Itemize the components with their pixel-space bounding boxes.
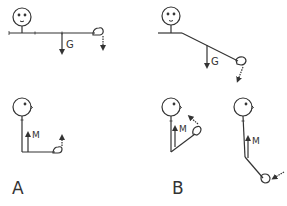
gravity-label: G [211, 56, 219, 67]
head-icon [162, 98, 182, 116]
muscle-label: M [252, 136, 260, 146]
load-arrow-down [238, 67, 243, 80]
figure-a-gravity [9, 8, 103, 52]
panel-label-a: A [12, 178, 24, 198]
arm-bar [182, 33, 238, 61]
muscle-label: M [179, 124, 187, 134]
panel-label-b: B [172, 178, 184, 198]
head-icon [13, 98, 33, 116]
arm-lever-diagram: G G M [0, 0, 287, 206]
hand-icon [93, 28, 103, 35]
muscle-label: M [32, 130, 40, 140]
figure-b-gravity [158, 7, 246, 80]
hand-icon [193, 126, 201, 135]
upper-arm [243, 116, 245, 157]
forearm [245, 157, 263, 178]
hand-icon [261, 174, 270, 183]
head-icon [162, 7, 180, 25]
figure-a-muscle [13, 98, 62, 153]
head-icon [234, 98, 254, 116]
head-icon [13, 8, 31, 26]
load-arrow-up-left [190, 117, 198, 124]
load-arrow-left [274, 172, 284, 178]
gravity-label: G [66, 39, 74, 50]
